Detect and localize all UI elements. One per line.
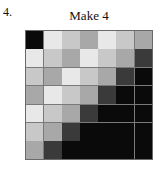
grid-cell bbox=[62, 31, 79, 49]
grid-cell bbox=[135, 105, 152, 123]
grid-cell bbox=[62, 49, 79, 67]
grid-cell bbox=[98, 105, 115, 123]
grid-cell bbox=[62, 141, 79, 159]
grid-cell bbox=[80, 49, 97, 67]
grid-cell bbox=[26, 31, 43, 49]
grid-cell bbox=[80, 141, 97, 159]
grid-cell bbox=[26, 49, 43, 67]
grid-cell bbox=[135, 68, 152, 86]
grid-cell bbox=[62, 86, 79, 104]
grid-cell bbox=[98, 86, 115, 104]
grid-cell bbox=[135, 123, 152, 141]
grid-cell bbox=[98, 68, 115, 86]
grid-cell bbox=[44, 123, 61, 141]
grid-cell bbox=[44, 86, 61, 104]
grid-cell bbox=[26, 86, 43, 104]
grid-cell bbox=[116, 123, 133, 141]
grid-cell bbox=[80, 31, 97, 49]
grid-cell bbox=[116, 31, 133, 49]
grid-cell bbox=[116, 86, 133, 104]
grid-cell bbox=[135, 86, 152, 104]
grid-cell bbox=[62, 68, 79, 86]
grid-cell bbox=[62, 123, 79, 141]
grid-cell bbox=[80, 123, 97, 141]
grid-cell bbox=[26, 68, 43, 86]
grid-container bbox=[25, 30, 153, 160]
grid-cell bbox=[26, 123, 43, 141]
grid-cell bbox=[44, 68, 61, 86]
grid-cell bbox=[116, 105, 133, 123]
grid-cell bbox=[26, 141, 43, 159]
grid-cell bbox=[62, 105, 79, 123]
grid-cell bbox=[135, 49, 152, 67]
figure-container: 4. Make 4 bbox=[0, 0, 164, 169]
grid-cell bbox=[44, 31, 61, 49]
grid-cell bbox=[26, 105, 43, 123]
grid-cell bbox=[116, 68, 133, 86]
item-number-label: 4. bbox=[3, 6, 12, 18]
grid-cell bbox=[98, 123, 115, 141]
grid-cell bbox=[98, 49, 115, 67]
grid-cell bbox=[80, 86, 97, 104]
shade-grid bbox=[26, 31, 152, 159]
grid-cell bbox=[44, 105, 61, 123]
grid-cell bbox=[135, 141, 152, 159]
grid-cell bbox=[98, 141, 115, 159]
figure-title: Make 4 bbox=[25, 8, 153, 23]
grid-cell bbox=[80, 105, 97, 123]
grid-cell bbox=[116, 49, 133, 67]
grid-cell bbox=[116, 141, 133, 159]
grid-cell bbox=[80, 68, 97, 86]
grid-cell bbox=[44, 49, 61, 67]
grid-cell bbox=[98, 31, 115, 49]
grid-cell bbox=[135, 31, 152, 49]
grid-cell bbox=[44, 141, 61, 159]
